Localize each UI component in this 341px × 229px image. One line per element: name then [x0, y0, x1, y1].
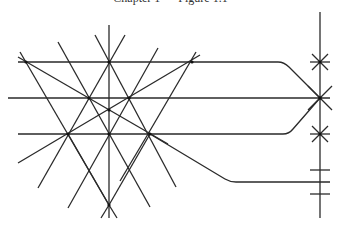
lower-branch-line — [150, 134, 330, 182]
bottom-line — [18, 98, 320, 134]
horizontal-lines — [8, 62, 330, 182]
top-line — [18, 62, 320, 98]
line-diagram — [0, 0, 341, 229]
